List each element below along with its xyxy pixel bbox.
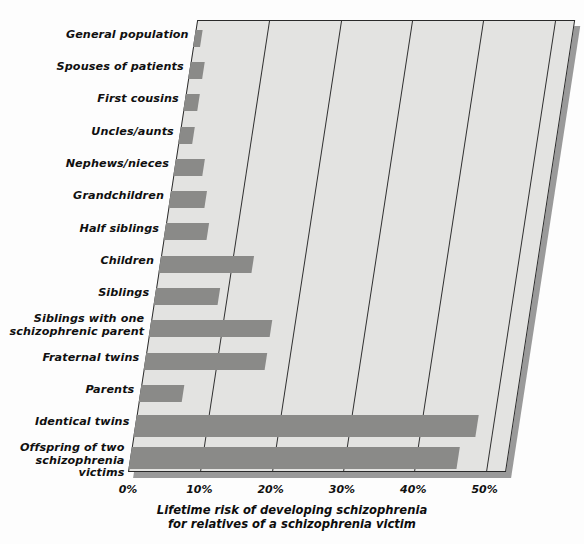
x-tick-label: 10% — [186, 483, 212, 496]
category-label: Spouses of patients — [0, 61, 184, 74]
category-label-line: Identical twins — [0, 416, 129, 429]
category-label: Children — [0, 255, 154, 268]
category-label: Siblings with oneschizophrenic parent — [0, 313, 144, 338]
category-label-line: Half siblings — [0, 223, 159, 236]
x-tick-label: 30% — [329, 483, 355, 496]
category-label: First cousins — [0, 93, 179, 106]
x-tick-label: 50% — [471, 483, 497, 496]
caption-line-2: for relatives of a schizophrenia victim — [0, 517, 584, 531]
category-label: Identical twins — [0, 416, 129, 429]
category-label: Grandchildren — [0, 190, 164, 203]
category-label: Uncles/aunts — [0, 126, 174, 139]
chart-page: General populationSpouses of patientsFir… — [0, 0, 584, 544]
category-label: General population — [0, 29, 189, 42]
category-label: Offspring of twoschizophrenia victims — [0, 442, 124, 480]
category-label-line: Fraternal twins — [0, 352, 139, 365]
category-label-line: First cousins — [0, 93, 179, 106]
category-axis-labels: General populationSpouses of patientsFir… — [0, 0, 584, 500]
x-tick-label: 20% — [257, 483, 283, 496]
category-label-line: Siblings — [0, 287, 149, 300]
category-label-line: Children — [0, 255, 154, 268]
category-label: Fraternal twins — [0, 352, 139, 365]
x-tick-label: 0% — [119, 483, 138, 496]
category-label-line: Offspring of two — [0, 442, 124, 455]
chart-caption: Lifetime risk of developing schizophreni… — [0, 503, 584, 531]
category-label-line: Grandchildren — [0, 190, 164, 203]
category-label: Parents — [0, 384, 134, 397]
category-label-line: schizophrenia victims — [0, 455, 124, 480]
category-label-line: schizophrenic parent — [0, 326, 144, 339]
category-label-line: Uncles/aunts — [0, 126, 174, 139]
x-tick-label: 40% — [400, 483, 426, 496]
category-label-line: Spouses of patients — [0, 61, 184, 74]
category-label: Siblings — [0, 287, 149, 300]
category-label-line: Siblings with one — [0, 313, 144, 326]
bar-chart: General populationSpouses of patientsFir… — [0, 0, 584, 500]
caption-line-1: Lifetime risk of developing schizophreni… — [0, 503, 584, 517]
category-label: Half siblings — [0, 223, 159, 236]
category-label-line: General population — [0, 29, 189, 42]
category-label-line: Parents — [0, 384, 134, 397]
category-label: Nephews/nieces — [0, 158, 169, 171]
x-axis-tick-labels: 0%10%20%30%40%50% — [0, 483, 584, 503]
category-label-line: Nephews/nieces — [0, 158, 169, 171]
